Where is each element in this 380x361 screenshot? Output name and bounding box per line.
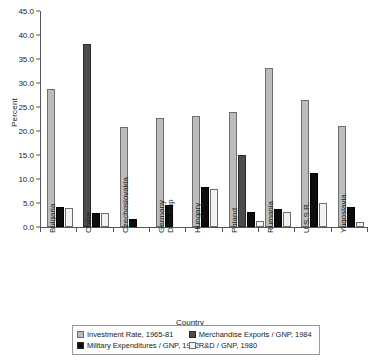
- x-axis-category-label: Bulgaria: [49, 204, 58, 233]
- y-axis-tick-label: 40.0: [0, 31, 34, 40]
- bar: [319, 203, 327, 227]
- legend-label: Merchandise Exports / GNP, 1984: [199, 330, 312, 339]
- x-axis-category-line: Bulgaria: [49, 204, 58, 233]
- y-axis-tick-label: 15.0: [0, 151, 34, 160]
- bar-chart: Percent 45.040.035.030.025.020.015.010.0…: [0, 0, 380, 361]
- bar: [310, 173, 318, 227]
- y-axis-tick-label: 45.0: [0, 7, 34, 16]
- x-axis-category-label: Czechoslovakia: [122, 177, 131, 233]
- bar: [356, 222, 364, 227]
- y-axis-tick-label: 10.0: [0, 175, 34, 184]
- bar: [83, 44, 91, 227]
- x-axis-category-label: China: [85, 212, 94, 233]
- x-axis-category-label: Hungary: [194, 203, 203, 233]
- bars-container: [41, 11, 368, 227]
- chart-legend: Investment Rate, 1965-81Merchandise Expo…: [72, 325, 320, 355]
- bar: [65, 208, 73, 227]
- legend-label: R&D / GNP, 1980: [199, 341, 257, 350]
- x-axis-tick-mark: [40, 228, 41, 232]
- x-axis-category-line: Hungary: [194, 203, 203, 233]
- legend-item: R&D / GNP, 1980: [189, 341, 315, 350]
- x-axis-category-label: U.S.S.R.: [303, 202, 312, 233]
- x-axis-category-label: Yugoslavia: [340, 194, 349, 233]
- legend-item: Investment Rate, 1965-81: [77, 330, 189, 339]
- x-axis-category-line: Poland: [231, 208, 240, 233]
- x-axis-category-line: China: [85, 212, 94, 233]
- x-axis-category-line: U.S.S.R.: [303, 202, 312, 233]
- y-axis-tick-label: 25.0: [0, 103, 34, 112]
- x-axis-category-label: Poland: [231, 208, 240, 233]
- legend-label: Military Expenditures / GNP, 1982: [87, 341, 199, 350]
- y-axis-tick-label: 5.0: [0, 199, 34, 208]
- x-axis-tick-mark: [294, 228, 295, 232]
- bar-group: [301, 11, 327, 227]
- x-axis-tick-mark: [149, 228, 150, 232]
- bar: [92, 213, 100, 227]
- legend-swatch: [77, 342, 84, 349]
- x-axis-tick-mark: [113, 228, 114, 232]
- bar-group: [265, 11, 291, 227]
- x-axis-category-label: GermanyDem Rep: [158, 199, 175, 233]
- y-axis-tick-label: 30.0: [0, 79, 34, 88]
- x-axis-category-line: Dem Rep: [167, 199, 176, 233]
- x-axis-category-line: Czechoslovakia: [122, 177, 131, 233]
- x-axis-category-label: Rumania: [267, 201, 276, 233]
- legend-swatch: [77, 331, 84, 338]
- bar: [247, 212, 255, 227]
- x-axis-tick-mark: [367, 228, 368, 232]
- x-axis-tick-mark: [331, 228, 332, 232]
- y-axis-tick-label: 20.0: [0, 127, 34, 136]
- legend-item: Merchandise Exports / GNP, 1984: [189, 330, 315, 339]
- y-axis-tick-label: 35.0: [0, 55, 34, 64]
- legend-swatch: [189, 331, 196, 338]
- bar-group: [47, 11, 73, 227]
- x-axis-category-line: Yugoslavia: [340, 194, 349, 233]
- bar: [210, 189, 218, 227]
- bar-group: [229, 11, 264, 227]
- bar-group: [156, 11, 173, 227]
- x-axis-tick-mark: [222, 228, 223, 232]
- bar: [201, 187, 209, 227]
- legend-label: Investment Rate, 1965-81: [87, 330, 173, 339]
- legend-item: Military Expenditures / GNP, 1982: [77, 341, 189, 350]
- legend-swatch: [189, 342, 196, 349]
- x-axis-category-line: Rumania: [267, 201, 276, 233]
- x-axis-tick-mark: [185, 228, 186, 232]
- x-axis-tick-mark: [258, 228, 259, 232]
- bar: [256, 221, 264, 227]
- y-axis-tick-label: 0.0: [0, 223, 34, 232]
- bar: [101, 213, 109, 227]
- bar: [283, 212, 291, 227]
- x-axis-tick-mark: [76, 228, 77, 232]
- bar-group: [83, 11, 109, 227]
- plot-area: [40, 11, 368, 228]
- bar-group: [192, 11, 218, 227]
